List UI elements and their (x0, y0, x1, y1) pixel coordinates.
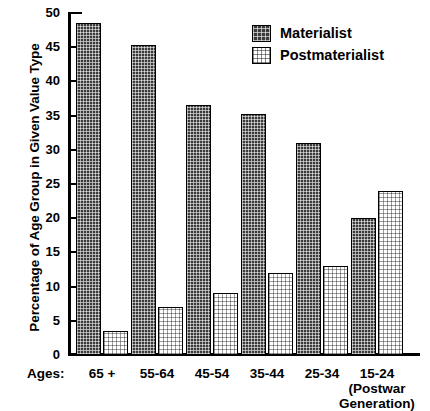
legend-label-materialist: Materialist (280, 25, 352, 41)
legend-item-materialist: Materialist (252, 22, 384, 44)
bar-materialist (296, 143, 321, 355)
bar-group (186, 13, 238, 355)
bar-materialist (131, 45, 156, 355)
chart-legend: Materialist Postmaterialist (252, 22, 384, 66)
y-axis-tick-label: 0 (30, 348, 60, 361)
bar-postmaterialist (103, 331, 128, 355)
y-axis-tick-label: 5 (30, 314, 60, 327)
bar-postmaterialist (213, 293, 238, 355)
legend-swatch-materialist-icon (252, 25, 271, 42)
x-axis-prefix-label: Ages: (27, 366, 65, 381)
bar-group (131, 13, 183, 355)
legend-label-postmaterialist: Postmaterialist (280, 47, 384, 63)
y-axis-tick-label: 25 (30, 177, 60, 190)
y-axis-tick-label: 35 (30, 109, 60, 122)
y-axis-tick-label: 20 (30, 211, 60, 224)
bar-materialist (351, 218, 376, 355)
bar-materialist (76, 23, 101, 355)
bar-group (76, 13, 128, 355)
y-axis-tick-label: 10 (30, 280, 60, 293)
bar-materialist (186, 105, 211, 355)
x-axis-category-label: 15-24(PostwarGeneration) (337, 366, 417, 411)
y-axis-tick-label: 50 (30, 6, 60, 19)
legend-swatch-postmaterialist-icon (252, 47, 271, 64)
y-axis-tick-label: 30 (30, 143, 60, 156)
bar-postmaterialist (268, 273, 293, 355)
y-axis-tick-label: 40 (30, 74, 60, 87)
y-axis-tick-label: 15 (30, 245, 60, 258)
bar-postmaterialist (378, 191, 403, 355)
bar-materialist (241, 114, 266, 355)
bar-postmaterialist (323, 266, 348, 355)
legend-item-postmaterialist: Postmaterialist (252, 44, 384, 66)
y-axis-tick-label: 45 (30, 40, 60, 53)
bar-postmaterialist (158, 307, 183, 355)
